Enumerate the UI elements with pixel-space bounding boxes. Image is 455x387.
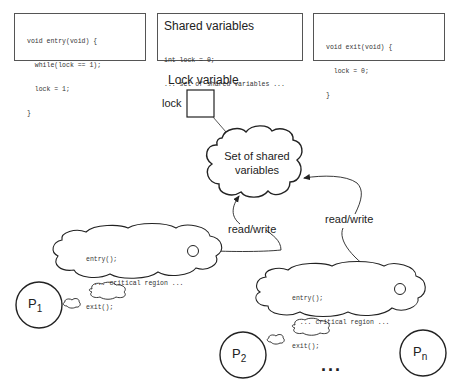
right-bubble-small [267, 335, 284, 345]
right-thought-circle [395, 284, 406, 295]
shared-cloud-line: variables [212, 163, 302, 177]
process-sub: 1 [37, 303, 43, 314]
process-pn-label: Pn [413, 344, 427, 362]
code-line: exit(); [292, 343, 390, 351]
code-line: entry(); [86, 256, 184, 264]
code-line: exit(); [86, 304, 184, 312]
shared-cloud-text: Set of shared variables [212, 149, 302, 177]
lock-variable-title: Lock variable [168, 73, 239, 87]
process-base: P [413, 344, 422, 359]
left-readwrite-label: read/write [228, 223, 276, 235]
left-readwrite-arrow [233, 196, 240, 224]
left-bubble-small [63, 299, 80, 309]
process-p2-label: P2 [232, 346, 246, 364]
process-ellipsis: ... [321, 355, 342, 376]
lock-label: lock [162, 97, 182, 109]
lock-connector [213, 117, 226, 132]
right-readwrite-label: read/write [325, 213, 373, 225]
left-thought-circle [188, 246, 199, 257]
right-thought-code: entry(); ... critical region ... exit(); [292, 279, 390, 359]
process-base: P [232, 346, 241, 361]
code-line: ... critical region ... [292, 319, 390, 327]
process-sub: n [422, 351, 428, 362]
shared-cloud-line: Set of shared [212, 149, 302, 163]
left-thought-code: entry(); ... critical region ... exit(); [86, 240, 184, 320]
code-line: ... critical region ... [86, 280, 184, 288]
process-p1-label: P1 [28, 296, 42, 314]
lock-square [187, 90, 214, 117]
code-line: entry(); [292, 295, 390, 303]
process-sub: 2 [241, 353, 247, 364]
process-base: P [28, 296, 37, 311]
right-readwrite-arrow [304, 176, 361, 214]
